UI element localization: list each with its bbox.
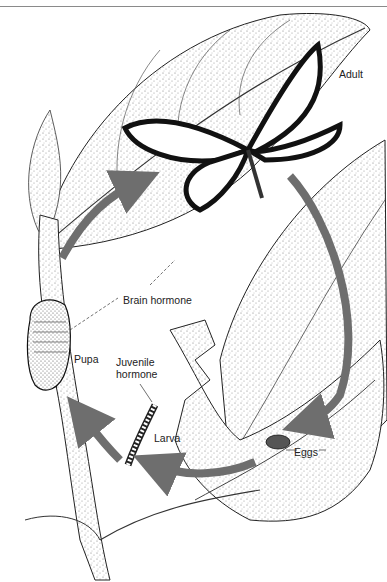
label-adult: Adult <box>339 68 363 80</box>
label-pupa: Pupa <box>74 353 99 365</box>
label-juvenile-hormone-1: Juvenile <box>116 356 155 368</box>
life-cycle-diagram: Adult Brain hormone Pupa Juvenile hormon… <box>0 0 387 582</box>
illustration <box>0 0 387 582</box>
label-larva: Larva <box>154 432 180 444</box>
pupa-chrysalis <box>27 300 70 390</box>
eggs-cluster <box>266 435 290 449</box>
label-juvenile-hormone-2: hormone <box>116 368 157 380</box>
juvenile-hormone-leader <box>140 384 152 402</box>
label-brain-hormone: Brain hormone <box>123 294 192 306</box>
arrow-larva-to-pupa <box>82 415 120 460</box>
brain-hormone-leader <box>70 298 118 330</box>
label-eggs: Eggs <box>294 446 318 458</box>
larva-caterpillar <box>128 405 155 465</box>
brain-hormone-leader-upper <box>150 260 175 285</box>
